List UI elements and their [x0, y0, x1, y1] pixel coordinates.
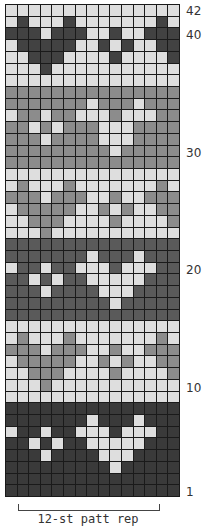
chart-cell-r33-c9: [99, 110, 110, 121]
chart-cell-r18-c15: [168, 286, 179, 297]
chart-cell-r37-c13: [145, 64, 156, 75]
chart-cell-r24-c13: [145, 216, 156, 227]
chart-cell-r26-c15: [168, 192, 179, 203]
chart-cell-r40-c12: [134, 28, 145, 39]
chart-cell-r37-c9: [99, 64, 110, 75]
chart-cell-r31-c11: [122, 134, 133, 145]
chart-cell-r27-c6: [64, 181, 75, 192]
chart-cell-r34-c3: [29, 99, 40, 110]
chart-cell-r5-c9: [99, 438, 110, 449]
chart-cell-r14-c6: [64, 333, 75, 344]
chart-cell-r6-c14: [157, 427, 168, 438]
chart-cell-r40-c2: [18, 28, 29, 39]
chart-cell-r22-c15: [168, 239, 179, 250]
chart-cell-r23-c1: [6, 228, 17, 239]
chart-cell-r1-c11: [122, 485, 133, 496]
chart-cell-r38-c7: [76, 52, 87, 63]
chart-cell-r2-c12: [134, 474, 145, 485]
chart-cell-r7-c9: [99, 415, 110, 426]
chart-cell-r22-c4: [41, 239, 52, 250]
chart-cell-r40-c11: [122, 28, 133, 39]
chart-cell-r12-c14: [157, 356, 168, 367]
chart-cell-r30-c1: [6, 146, 17, 157]
chart-cell-r40-c6: [64, 28, 75, 39]
chart-cell-r35-c6: [64, 87, 75, 98]
chart-cell-r8-c5: [52, 403, 63, 414]
chart-cell-r12-c6: [64, 356, 75, 367]
chart-cell-r42-c4: [41, 5, 52, 16]
chart-cell-r11-c11: [122, 368, 133, 379]
chart-cell-r23-c13: [145, 228, 156, 239]
chart-cell-r5-c13: [145, 438, 156, 449]
chart-cell-r12-c8: [87, 356, 98, 367]
chart-cell-r18-c3: [29, 286, 40, 297]
chart-cell-r32-c6: [64, 122, 75, 133]
chart-cell-r33-c10: [110, 110, 121, 121]
chart-cell-r6-c9: [99, 427, 110, 438]
chart-cell-r39-c15: [168, 40, 179, 51]
chart-cell-r18-c4: [41, 286, 52, 297]
chart-cell-r32-c10: [110, 122, 121, 133]
chart-cell-r26-c8: [87, 192, 98, 203]
chart-cell-r27-c13: [145, 181, 156, 192]
chart-cell-r40-c1: [6, 28, 17, 39]
chart-cell-r38-c14: [157, 52, 168, 63]
chart-cell-r39-c5: [52, 40, 63, 51]
chart-cell-r24-c12: [134, 216, 145, 227]
chart-cell-r28-c9: [99, 169, 110, 180]
chart-cell-r20-c7: [76, 263, 87, 274]
chart-cell-r2-c6: [64, 474, 75, 485]
chart-cell-r19-c10: [110, 274, 121, 285]
chart-cell-r1-c13: [145, 485, 156, 496]
chart-cell-r39-c1: [6, 40, 17, 51]
chart-cell-r24-c11: [122, 216, 133, 227]
chart-cell-r8-c10: [110, 403, 121, 414]
chart-cell-r28-c10: [110, 169, 121, 180]
chart-cell-r12-c1: [6, 356, 17, 367]
chart-cell-r33-c11: [122, 110, 133, 121]
chart-cell-r24-c8: [87, 216, 98, 227]
chart-cell-r41-c15: [168, 17, 179, 28]
chart-cell-r1-c10: [110, 485, 121, 496]
chart-cell-r5-c8: [87, 438, 98, 449]
chart-cell-r31-c15: [168, 134, 179, 145]
chart-cell-r27-c8: [87, 181, 98, 192]
chart-cell-r6-c11: [122, 427, 133, 438]
chart-cell-r13-c6: [64, 345, 75, 356]
chart-cell-r10-c5: [52, 380, 63, 391]
chart-cell-r8-c6: [64, 403, 75, 414]
chart-cell-r21-c11: [122, 251, 133, 262]
chart-cell-r35-c15: [168, 87, 179, 98]
chart-cell-r23-c5: [52, 228, 63, 239]
chart-cell-r9-c10: [110, 392, 121, 403]
chart-cell-r20-c12: [134, 263, 145, 274]
chart-cell-r21-c9: [99, 251, 110, 262]
chart-cell-r5-c12: [134, 438, 145, 449]
chart-cell-r33-c6: [64, 110, 75, 121]
chart-cell-r42-c7: [76, 5, 87, 16]
chart-cell-r42-c5: [52, 5, 63, 16]
chart-cell-r38-c9: [99, 52, 110, 63]
chart-cell-r6-c1: [6, 427, 17, 438]
chart-cell-r22-c5: [52, 239, 63, 250]
chart-cell-r37-c7: [76, 64, 87, 75]
chart-cell-r30-c8: [87, 146, 98, 157]
chart-cell-r29-c6: [64, 157, 75, 168]
chart-cell-r42-c3: [29, 5, 40, 16]
chart-cell-r22-c3: [29, 239, 40, 250]
chart-cell-r4-c11: [122, 450, 133, 461]
chart-cell-r1-c3: [29, 485, 40, 496]
chart-cell-r36-c11: [122, 75, 133, 86]
chart-cell-r5-c15: [168, 438, 179, 449]
chart-cell-r28-c11: [122, 169, 133, 180]
chart-cell-r3-c10: [110, 462, 121, 473]
chart-cell-r23-c12: [134, 228, 145, 239]
chart-cell-r4-c1: [6, 450, 17, 461]
chart-cell-r27-c9: [99, 181, 110, 192]
chart-cell-r22-c13: [145, 239, 156, 250]
chart-cell-r24-c1: [6, 216, 17, 227]
chart-cell-r1-c4: [41, 485, 52, 496]
chart-cell-r38-c1: [6, 52, 17, 63]
chart-cell-r9-c14: [157, 392, 168, 403]
chart-cell-r9-c7: [76, 392, 87, 403]
